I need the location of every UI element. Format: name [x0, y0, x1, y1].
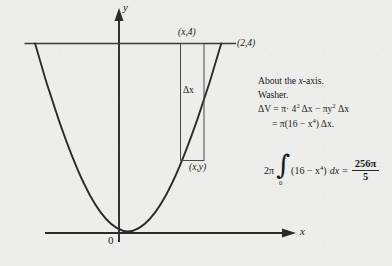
y-axis-label: y: [123, 2, 128, 14]
integral-lower-limit: 0: [279, 179, 282, 186]
integrand: (16 − x4): [291, 164, 327, 176]
annotation-line-axis: About the x-axis.: [258, 74, 392, 88]
plot-canvas: [0, 0, 392, 266]
integrand-lead: (16 − x: [291, 165, 320, 176]
figure-root: y x 0 (x,4) (2,4) (x,y) Δx About the x-a…: [0, 0, 392, 266]
result-numerator: 256π: [352, 158, 380, 171]
result-denominator: 5: [352, 171, 380, 183]
point-label-xy: (x,y): [189, 163, 206, 173]
point-label-x4: (x,4): [178, 28, 196, 38]
x-axis: [45, 228, 296, 237]
integrand-tail: ): [323, 165, 326, 176]
annotation-line-dv: ΔV = π· 42 Δx − πy2 Δx: [258, 101, 392, 116]
dv-tail: Δx: [336, 103, 349, 114]
strip-width-label: Δx: [183, 86, 194, 96]
origin-label: 0: [108, 235, 114, 247]
point-label-2-4: (2,4): [237, 39, 255, 49]
integral-expression: 2π ∫ 2 0 (16 − x4) dx = 256π 5: [264, 155, 379, 185]
integral-result-fraction: 256π 5: [352, 158, 380, 183]
integral-equals: =: [342, 165, 348, 176]
parabola-curve: [35, 44, 221, 232]
x-axis-label: x: [300, 226, 305, 238]
annotation-line-method: Washer.: [258, 88, 392, 102]
washer-strip-rect: [181, 44, 205, 161]
annotation-line-simplified: = π(16 − x4) Δx.: [258, 116, 392, 131]
annotation-axis-tail: -axis.: [303, 75, 324, 86]
dv-lead: ΔV = π· 4: [258, 103, 296, 114]
delta-x-text: Δx: [183, 85, 194, 95]
differential: dx: [330, 165, 339, 176]
simp-tail: ) Δx.: [316, 118, 334, 129]
integral-sign: ∫ 2 0: [275, 155, 288, 185]
annotation-block: About the x-axis. Washer. ΔV = π· 42 Δx …: [258, 74, 392, 131]
dv-mid: Δx − πy: [300, 103, 333, 114]
integral-upper-limit: 2: [283, 153, 286, 160]
simp-lead: = π(16 − x: [272, 118, 312, 129]
annotation-axis-lead: About the: [258, 75, 299, 86]
integral-coefficient: 2π: [264, 165, 274, 176]
